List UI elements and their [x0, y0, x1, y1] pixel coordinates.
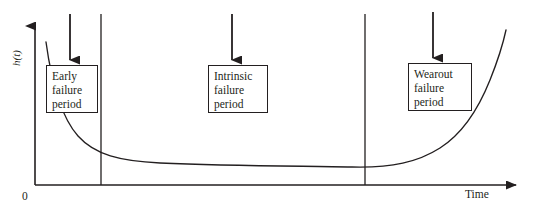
region-label-early-failure-period: Early failure period — [46, 65, 98, 113]
bathtub-curve-figure: Early failure period Intrinsic failure p… — [0, 0, 536, 217]
region-label-intrinsic-failure-period: Intrinsic failure period — [208, 65, 268, 113]
x-axis-label: Time — [465, 188, 489, 200]
y-axis-label: h(t) — [10, 50, 22, 66]
region-label-wearout-failure-period: Wearout failure period — [408, 63, 472, 111]
origin-label: 0 — [22, 190, 28, 202]
